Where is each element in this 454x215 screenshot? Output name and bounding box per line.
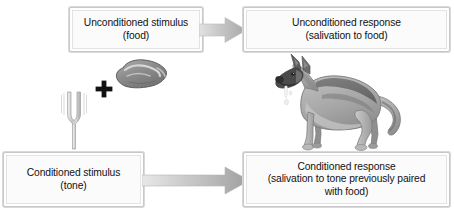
box-conditioned-stimulus: Conditioned stimulus (tone) [3, 152, 144, 207]
arrow-right-long-icon-bottom [142, 166, 250, 195]
box-conditioned-stimulus-text: Conditioned stimulus (tone) [23, 167, 125, 192]
plus-sign-icon [95, 80, 113, 98]
diagram-canvas: Unconditioned stimulus (food) Unconditio… [0, 0, 454, 215]
box-unconditioned-stimulus: Unconditioned stimulus (food) [69, 7, 203, 52]
box-conditioned-stimulus-line2: (tone) [27, 180, 121, 192]
tuning-fork-icon [56, 90, 92, 152]
meat-food-icon [113, 58, 168, 91]
dog-salivating-icon [272, 50, 404, 153]
box-unconditioned-response-text: Unconditioned response (salivation to fo… [288, 17, 405, 42]
arrow-right-icon-top [199, 17, 247, 43]
box-conditioned-response-line3: with food) [268, 186, 426, 198]
box-unconditioned-stimulus-line2: (food) [84, 30, 188, 42]
box-unconditioned-stimulus-line1: Unconditioned stimulus [84, 17, 188, 29]
box-unconditioned-response: Unconditioned response (salivation to fo… [243, 7, 450, 52]
box-unconditioned-stimulus-text: Unconditioned stimulus (food) [80, 17, 192, 42]
box-conditioned-response: Conditioned response (salivation to tone… [243, 152, 450, 207]
box-conditioned-response-line1: Conditioned response [268, 161, 426, 173]
box-conditioned-stimulus-line1: Conditioned stimulus [27, 167, 121, 179]
box-unconditioned-response-line1: Unconditioned response [292, 17, 401, 29]
box-conditioned-response-text: Conditioned response (salivation to tone… [264, 161, 430, 198]
saliva-drops [284, 86, 291, 105]
box-conditioned-response-line2: (salivation to tone previously paired [268, 173, 426, 185]
box-unconditioned-response-line2: (salivation to food) [292, 30, 401, 42]
